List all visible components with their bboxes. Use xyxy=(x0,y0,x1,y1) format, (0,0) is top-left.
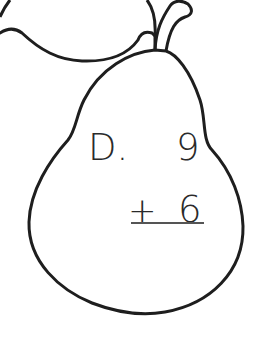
pear-worksheet-illustration: D. 9 + 6 xyxy=(0,0,270,340)
pear-body-outline xyxy=(29,50,243,314)
pear-leaf-right-edge xyxy=(147,0,155,50)
problem-label: D. xyxy=(88,126,128,169)
pear-stem xyxy=(155,1,191,51)
pear-leaf-top xyxy=(0,0,10,17)
addend-bottom: 6 xyxy=(178,188,202,231)
addend-top: 9 xyxy=(176,126,200,169)
